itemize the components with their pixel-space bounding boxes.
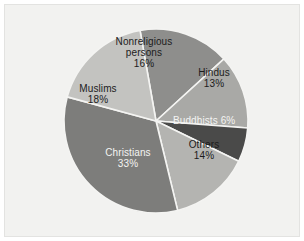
pie-chart-svg bbox=[5, 5, 301, 238]
figure-panel: Nonreligious persons 16% Hindus 13% Budd… bbox=[4, 4, 300, 237]
pie-chart: Nonreligious persons 16% Hindus 13% Budd… bbox=[5, 5, 301, 238]
